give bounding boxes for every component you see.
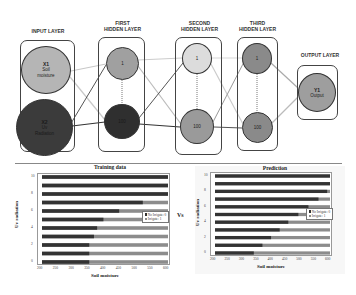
first-hidden-layer-label: FIRST HIDDEN LAYER [95,20,150,32]
bar-no-irrigate [42,201,143,205]
y-tick-label: 4 [31,225,33,229]
training-legend: No Irrigate: 0 Irrigate: 1 [142,211,169,223]
x-tick-label: 200 [210,257,215,261]
y-tick-label: 10 [31,174,35,178]
x-tick-label: 450 [116,266,121,270]
hidden3-node-1-label: 1 [256,56,259,62]
y-tick-label: 2 [204,235,206,239]
second-hidden-layer-label: SECOND HIDDEN LAYER [172,20,227,32]
x-tick-label: 400 [100,266,105,270]
bar-no-irrigate [215,197,319,200]
third-hidden-layer-label: THIRD HIDDEN LAYER [230,20,285,32]
output-node-y1: Y1 Output [298,73,336,112]
bar-no-irrigate [42,184,168,188]
bar-no-irrigate [42,235,94,239]
hidden2-node-100: 100 [180,109,214,144]
y-tick-label: 6 [31,208,33,212]
input-node-x1: X1 Soil moisture [21,46,71,94]
y-tick-label: 10 [204,173,208,177]
bar-no-irrigate [215,213,298,216]
x-tick-label: 350 [253,257,258,261]
bar-no-irrigate [215,251,254,254]
prediction-x-axis-label: Soil moisture [241,264,301,269]
bar-no-irrigate [215,244,262,247]
bar-no-irrigate [42,226,97,230]
x-tick-label: 500 [296,257,301,261]
bar-no-irrigate [215,190,327,193]
x-tick-label: 550 [147,266,152,270]
y-tick-label: 8 [31,191,33,195]
section-divider [15,163,342,164]
bar-no-irrigate [215,182,330,185]
bar-no-irrigate [215,236,271,239]
bar-no-irrigate [215,205,308,208]
prediction-y-axis-label: Uv radiation [195,193,200,233]
input-node-x2: X2 Uv Radiation [16,99,73,156]
x1-label-line2: moisture [37,73,54,79]
x-tick-label: 600 [163,266,168,270]
x-tick-label: 350 [84,266,89,270]
hidden3-node-100: 100 [242,112,273,143]
first-hidden-label-line2: HIDDEN LAYER [95,26,150,32]
hidden2-node-100-label: 100 [193,124,201,130]
x-tick-label: 300 [239,257,244,261]
bar-no-irrigate [42,175,168,179]
hidden3-node-100-label: 100 [254,125,262,131]
x-tick-label: 600 [325,257,330,261]
bar-no-irrigate [215,228,280,231]
y-tick-label: 4 [204,219,206,223]
y-tick-label: 2 [31,242,33,246]
second-hidden-label-line2: HIDDEN LAYER [172,26,227,32]
training-legend-irrigate: Irrigate: 1 [145,217,167,222]
hidden1-node-100-label: 100 [118,119,126,125]
third-hidden-label-line2: HIDDEN LAYER [230,26,285,32]
prediction-legend-irrigate: Irrigate: 1 [309,214,331,219]
output-layer-label: OUTPUT LAYER [290,52,350,58]
bar-no-irrigate [215,174,330,177]
x-tick-label: 500 [132,266,137,270]
prediction-chart-title: Prediction [235,165,315,171]
y1-label: Output [310,93,324,99]
hidden2-node-1-label: 1 [196,56,199,62]
hidden1-node-100: 100 [104,104,140,139]
bar-no-irrigate [42,252,89,256]
y-tick-label: 0 [31,259,33,263]
bar-no-irrigate [215,221,288,224]
x-tick-label: 250 [224,257,229,261]
training-y-axis-label: Uv radiation [14,195,19,235]
x-tick-label: 200 [37,266,42,270]
bar-no-irrigate [42,192,168,196]
x-tick-label: 400 [268,257,273,261]
prediction-legend: No Irrigate: 0 Irrigate: 1 [306,208,333,220]
hidden1-node-1: 1 [106,47,139,80]
hidden1-node-1-label: 1 [121,61,124,67]
x2-label-line2: Radiation [35,131,54,137]
hidden2-node-1: 1 [182,43,212,74]
vs-label: Vs [177,212,184,218]
y-tick-label: 6 [204,204,206,208]
training-x-axis-label: Soil moisture [75,273,135,278]
bar-no-irrigate [42,243,89,247]
x-tick-label: 250 [53,266,58,270]
bar-no-irrigate [42,209,119,213]
hidden3-node-1: 1 [242,43,272,74]
training-chart-title: Training data [70,164,150,170]
y-tick-label: 8 [204,188,206,192]
x-tick-label: 450 [282,257,287,261]
x-tick-label: 550 [311,257,316,261]
x-tick-label: 300 [69,266,74,270]
input-layer-label: INPUT LAYER [18,28,78,34]
bar-no-irrigate [42,260,89,264]
bar-no-irrigate [42,218,103,222]
y-tick-label: 0 [204,250,206,254]
